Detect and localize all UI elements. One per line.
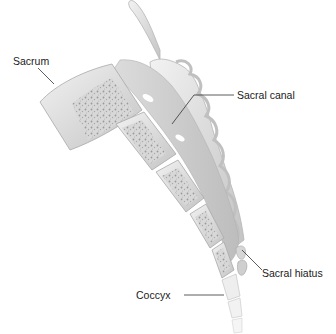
label-sacral-hiatus: Sacral hiatus (262, 267, 323, 279)
label-sacrum: Sacrum (13, 55, 49, 67)
coccyx-bone (222, 274, 242, 333)
sacral-cornu (237, 260, 246, 275)
label-sacral-canal: Sacral canal (237, 89, 295, 101)
label-coccyx: Coccyx (136, 289, 170, 301)
sacrum-leader (38, 68, 54, 84)
sacrum-illustration (0, 0, 336, 334)
sacrum-diagram: Sacrum Sacral canal Sacral hiatus Coccyx (0, 0, 336, 334)
